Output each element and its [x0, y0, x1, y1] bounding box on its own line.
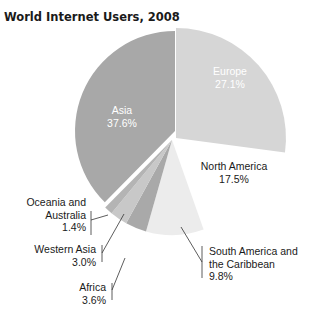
label-europe-value: 27.1%: [202, 78, 258, 91]
label-europe: Europe 27.1%: [202, 65, 258, 90]
label-africa: Africa 3.6%: [56, 281, 106, 306]
label-western-asia: Western Asia 3.0%: [26, 243, 96, 268]
label-north-america-value: 17.5%: [194, 173, 274, 186]
western-asia-leader: [102, 214, 124, 253]
label-oceania-name-2: Australia: [26, 209, 86, 222]
label-south-america: South America and the Caribbean 9.8%: [209, 245, 298, 283]
oceania-leader: [91, 215, 108, 220]
label-western-asia-name: Western Asia: [26, 243, 96, 256]
label-south-america-name-2: the Caribbean: [209, 258, 298, 271]
label-asia: Asia 37.6%: [94, 104, 150, 129]
label-africa-name: Africa: [56, 281, 106, 294]
label-oceania-name-1: Oceania and: [26, 196, 86, 209]
label-western-asia-value: 3.0%: [26, 256, 96, 269]
africa-leader: [112, 258, 125, 290]
label-south-america-value: 9.8%: [209, 270, 298, 283]
label-africa-value: 3.6%: [56, 294, 106, 307]
label-north-america-name: North America: [194, 160, 274, 173]
label-europe-name: Europe: [202, 65, 258, 78]
label-oceania: Oceania and Australia 1.4%: [26, 196, 86, 234]
label-south-america-name-1: South America and: [209, 245, 298, 258]
label-oceania-value: 1.4%: [26, 221, 86, 234]
label-asia-name: Asia: [94, 104, 150, 117]
label-north-america: North America 17.5%: [194, 160, 274, 185]
label-asia-value: 37.6%: [94, 117, 150, 130]
slice-europe: [176, 28, 286, 153]
